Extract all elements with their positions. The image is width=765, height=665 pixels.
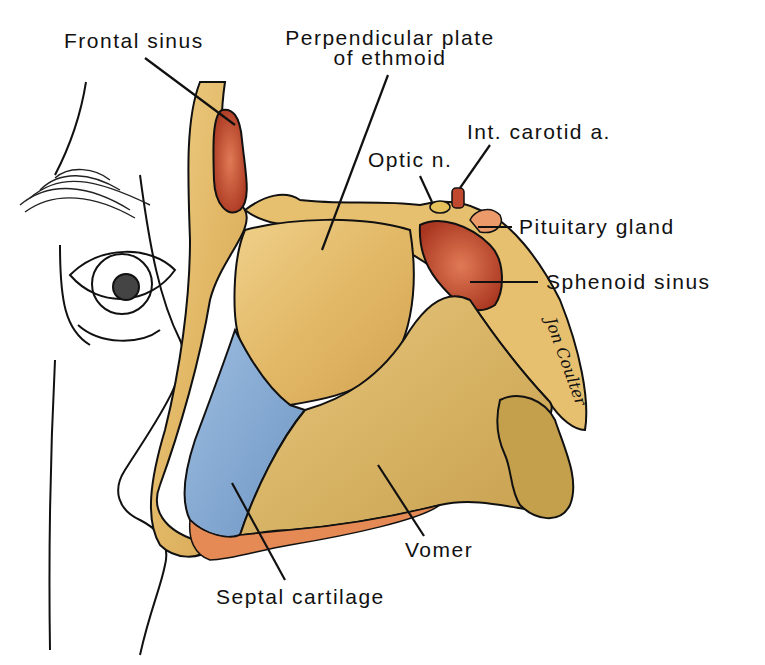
label-sphenoid-sinus: Sphenoid sinus xyxy=(546,271,711,293)
label-int-carotid-artery: Int. carotid a. xyxy=(467,121,611,143)
eyebrow xyxy=(20,170,150,218)
eye xyxy=(60,245,175,345)
nasal-septum-drawing: Jon Coulter xyxy=(0,0,765,665)
face-outline xyxy=(49,82,183,655)
optic-nerve xyxy=(430,201,450,213)
label-optic-nerve: Optic n. xyxy=(368,149,452,171)
anatomy-illustration: Jon Coulter Frontal sinus Perpendicular … xyxy=(0,0,765,665)
label-pituitary-gland: Pituitary gland xyxy=(519,216,675,238)
frontal-sinus xyxy=(213,110,246,213)
internal-carotid-artery xyxy=(452,188,464,208)
label-vomer: Vomer xyxy=(405,539,473,561)
label-frontal-sinus: Frontal sinus xyxy=(64,30,204,52)
label-perpendicular-plate-line2: of ethmoid xyxy=(280,47,500,69)
label-septal-cartilage: Septal cartilage xyxy=(216,586,385,608)
